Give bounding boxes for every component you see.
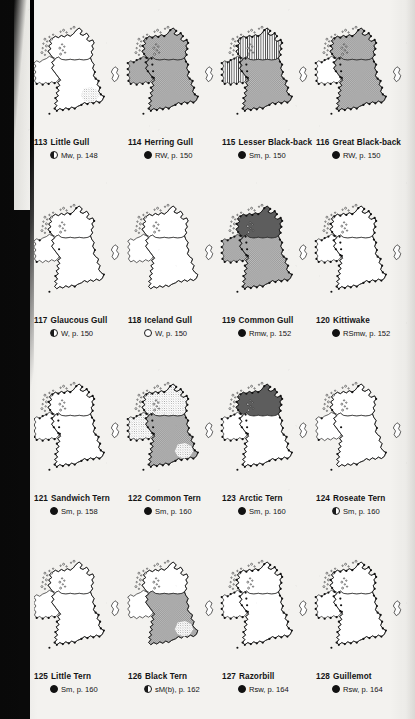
- status-code: Mw: [61, 151, 72, 160]
- status-code: Sm: [249, 151, 260, 160]
- status-code: Sm: [249, 507, 260, 516]
- map-number: 122: [128, 494, 142, 503]
- map-number: 127: [222, 672, 236, 681]
- status-code: Rsw: [343, 685, 357, 694]
- status-code: Sm: [155, 507, 166, 516]
- map-caption: 120KittiwakeRSmw, p. 152: [312, 316, 406, 338]
- map-caption-title: 116Great Black-back: [312, 138, 406, 147]
- status-symbol-icon: [50, 507, 58, 515]
- status-symbol-icon: [238, 507, 246, 515]
- map-cell[interactable]: 120KittiwakeRSmw, p. 152: [312, 182, 406, 360]
- map-number: 124: [316, 494, 330, 503]
- status-code: Sm: [61, 507, 72, 516]
- map-caption-title: 128Guillemot: [312, 672, 406, 681]
- map-cell[interactable]: 127RazorbillRsw, p. 164: [218, 538, 312, 716]
- map-cell[interactable]: 125Little TernSm, p. 160: [30, 538, 124, 716]
- map-caption: 113Little GullMw, p. 148: [30, 138, 124, 160]
- status-symbol-icon: [50, 329, 58, 337]
- species-name: Black Tern: [145, 672, 187, 681]
- map-cell[interactable]: 121Sandwich TernSm, p. 158: [30, 360, 124, 538]
- map-figure: [312, 542, 406, 670]
- map-caption-status: Sm, p. 160: [124, 506, 218, 516]
- status-code: Rmw: [249, 329, 266, 338]
- distribution-map-graphic: [218, 542, 312, 670]
- page-reference: p. 160: [359, 507, 380, 516]
- map-figure: [218, 186, 312, 314]
- map-caption-title: 122Common Tern: [124, 494, 218, 503]
- species-name: Glaucous Gull: [51, 316, 108, 325]
- map-caption: 121Sandwich TernSm, p. 158: [30, 494, 124, 516]
- map-caption-status: Rsw, p. 164: [218, 684, 312, 694]
- distribution-map-grid: 113Little GullMw, p. 148114Herring GullR…: [30, 4, 406, 716]
- page-reference: p. 150: [72, 329, 93, 338]
- map-caption-title: 123Arctic Tern: [218, 494, 312, 503]
- map-number: 121: [34, 494, 48, 503]
- map-caption: 128GuillemotRsw, p. 164: [312, 672, 406, 694]
- map-caption: 118Iceland GullW, p. 150: [124, 316, 218, 338]
- map-cell[interactable]: 126Black TernsM(b), p. 162: [124, 538, 218, 716]
- map-caption-status: Sm, p. 150: [218, 150, 312, 160]
- map-figure: [218, 542, 312, 670]
- species-name: Guillemot: [333, 672, 372, 681]
- map-figure: [312, 8, 406, 136]
- map-number: 116: [316, 138, 330, 147]
- map-caption-status: Sm, p. 160: [30, 684, 124, 694]
- map-cell[interactable]: 113Little GullMw, p. 148: [30, 4, 124, 182]
- status-code: Sm: [343, 507, 354, 516]
- distribution-map-graphic: [218, 8, 312, 136]
- page-reference: p. 164: [362, 685, 383, 694]
- scanned-page: 113Little GullMw, p. 148114Herring GullR…: [0, 0, 415, 719]
- map-caption: 124Roseate TernSm, p. 160: [312, 494, 406, 516]
- distribution-map-graphic: [30, 186, 124, 314]
- map-cell[interactable]: 115Lesser Black-backSm, p. 150: [218, 4, 312, 182]
- map-number: 113: [34, 138, 48, 147]
- map-cell[interactable]: 119Common GullRmw, p. 152: [218, 182, 312, 360]
- status-code: RSmw: [343, 329, 365, 338]
- map-cell[interactable]: 128GuillemotRsw, p. 164: [312, 538, 406, 716]
- map-number: 125: [34, 672, 48, 681]
- map-figure: [30, 364, 124, 492]
- map-caption-status: W, p. 150: [30, 328, 124, 338]
- map-caption-status: Sm, p. 158: [30, 506, 124, 516]
- page-right-edge: [402, 0, 415, 719]
- status-code: W: [61, 329, 68, 338]
- species-name: Common Tern: [145, 494, 201, 503]
- status-symbol-icon: [332, 329, 340, 337]
- species-name: Little Tern: [51, 672, 91, 681]
- map-number: 118: [128, 316, 142, 325]
- species-name: Arctic Tern: [239, 494, 283, 503]
- map-caption-status: Rsw, p. 164: [312, 684, 406, 694]
- status-symbol-icon: [332, 507, 340, 515]
- map-number: 128: [316, 672, 330, 681]
- map-number: 123: [222, 494, 236, 503]
- map-figure: [124, 364, 218, 492]
- map-cell[interactable]: 114Herring GullRW, p. 150: [124, 4, 218, 182]
- map-caption-status: Rmw, p. 152: [218, 328, 312, 338]
- distribution-map-graphic: [124, 364, 218, 492]
- map-caption-title: 124Roseate Tern: [312, 494, 406, 503]
- page-gutter-highlight: [14, 0, 30, 210]
- map-caption: 117Glaucous GullW, p. 150: [30, 316, 124, 338]
- map-cell[interactable]: 122Common TernSm, p. 160: [124, 360, 218, 538]
- page-reference: p. 150: [265, 151, 286, 160]
- distribution-map-graphic: [312, 364, 406, 492]
- map-cell[interactable]: 117Glaucous GullW, p. 150: [30, 182, 124, 360]
- map-caption-status: RSmw, p. 152: [312, 328, 406, 338]
- map-caption-status: Mw, p. 148: [30, 150, 124, 160]
- distribution-map-graphic: [124, 8, 218, 136]
- page-reference: p. 150: [166, 329, 187, 338]
- map-cell[interactable]: 124Roseate TernSm, p. 160: [312, 360, 406, 538]
- map-caption-title: 115Lesser Black-back: [218, 138, 312, 147]
- map-caption-title: 119Common Gull: [218, 316, 312, 325]
- map-cell[interactable]: 116Great Black-backRW, p. 150: [312, 4, 406, 182]
- page-reference: p. 162: [179, 685, 200, 694]
- map-number: 117: [34, 316, 48, 325]
- status-code: sM(b): [155, 685, 174, 694]
- map-cell[interactable]: 123Arctic TernSm, p. 160: [218, 360, 312, 538]
- page-reference: p. 160: [77, 685, 98, 694]
- map-caption-status: sM(b), p. 162: [124, 684, 218, 694]
- map-cell[interactable]: 118Iceland GullW, p. 150: [124, 182, 218, 360]
- page-reference: p. 152: [270, 329, 291, 338]
- map-caption-title: 121Sandwich Tern: [30, 494, 124, 503]
- species-name: Herring Gull: [145, 138, 194, 147]
